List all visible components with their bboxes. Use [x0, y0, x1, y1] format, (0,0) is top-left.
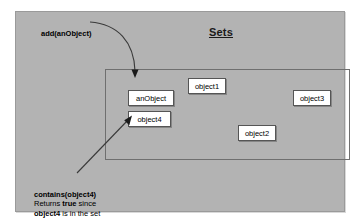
- annotation-contains: contains(object4) Returns true since obj…: [34, 190, 100, 218]
- diagram-canvas: Sets anObject object4 object1 object2 ob…: [0, 0, 360, 223]
- annotation-contains-line2: Returns true since: [34, 199, 100, 208]
- annotation-contains-line3: object4 is in the set: [34, 209, 100, 218]
- annotation-contains-line2-suffix: since: [77, 199, 97, 208]
- annotation-contains-line2-bold: true: [62, 199, 76, 208]
- object-box-object3: object3: [293, 90, 331, 106]
- page-title: Sets: [166, 26, 276, 38]
- annotation-contains-line1: contains(object4): [34, 190, 100, 199]
- object-box-anobject: anObject: [128, 90, 174, 106]
- annotation-contains-line3-bold: object4: [34, 209, 60, 218]
- slide-panel: Sets anObject object4 object1 object2 ob…: [15, 11, 345, 212]
- annotation-contains-line3-suffix: is in the set: [60, 209, 100, 218]
- object-box-object1: object1: [188, 78, 226, 94]
- annotation-contains-line2-prefix: Returns: [34, 199, 62, 208]
- object-box-object2: object2: [238, 125, 276, 141]
- annotation-add: add(anObject): [41, 29, 91, 38]
- object-box-object4: object4: [128, 111, 171, 127]
